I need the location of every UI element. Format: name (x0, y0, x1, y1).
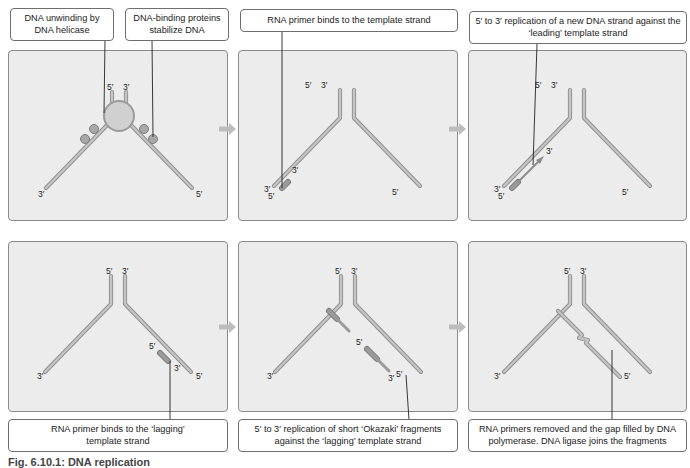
callout-primer-lagging: RNA primer binds to the ‘lagging’ templa… (8, 419, 228, 452)
svg-text:3′: 3′ (123, 82, 130, 92)
svg-text:5′: 5′ (107, 82, 114, 92)
svg-text:5′: 5′ (564, 266, 571, 276)
svg-text:5′: 5′ (392, 187, 399, 197)
svg-text:3′: 3′ (267, 371, 274, 381)
callout-okazaki: 5′ to 3′ replication of short ‘Okazaki’ … (238, 419, 458, 452)
svg-text:5′: 5′ (305, 80, 312, 90)
svg-text:3′: 3′ (546, 146, 553, 156)
arrow-right-icon (219, 321, 236, 333)
svg-text:3′: 3′ (551, 80, 558, 90)
svg-text:5′: 5′ (149, 341, 156, 351)
svg-text:5′: 5′ (268, 191, 275, 201)
leader-line (533, 44, 537, 165)
fork-leading-replication: 5′ 3′ 3′ 5′ 3′ 5′ (494, 80, 650, 201)
svg-text:3′: 3′ (292, 165, 299, 175)
figure-caption: Fig. 6.10.1: DNA replication (8, 456, 150, 468)
leader-line (406, 375, 409, 420)
arrow-right-icon (219, 123, 236, 135)
callout-ssb: DNA-binding proteins stabilize DNA (125, 8, 229, 41)
svg-text:5′: 5′ (196, 371, 203, 381)
svg-text:3′: 3′ (494, 371, 501, 381)
ssb-protein-icon (81, 135, 90, 144)
svg-text:5′: 5′ (356, 337, 363, 347)
fork-ligase: 5′ 3′ 3′ 5′ (494, 266, 650, 381)
leader-line (104, 40, 105, 113)
arrow-right-icon (449, 123, 466, 135)
svg-text:3′: 3′ (174, 363, 181, 373)
svg-text:5′: 5′ (498, 191, 505, 201)
arrow-right-icon (449, 321, 466, 333)
ssb-protein-icon (140, 125, 149, 134)
callout-helicase: DNA unwinding by DNA helicase (10, 8, 114, 41)
ssb-protein-icon (90, 125, 99, 134)
helicase-icon (104, 101, 134, 131)
svg-text:5′: 5′ (624, 371, 631, 381)
callout-primer-leading: RNA primer binds to the template strand (240, 9, 458, 32)
svg-text:3′: 3′ (321, 80, 328, 90)
callout-ligase: RNA primers removed and the gap filled b… (468, 419, 687, 452)
fork-primer-lagging: 5′ 3′ 3′ 5′ 3′ 5′ (37, 266, 203, 381)
svg-text:3′: 3′ (388, 373, 395, 383)
fork-okazaki: 5′ 3′ 3′ 5′ 3′ 5′ (267, 266, 421, 383)
svg-text:5′: 5′ (106, 266, 113, 276)
svg-text:3′: 3′ (38, 189, 45, 199)
callout-leading-replication: 5′ to 3′ replication of a new DNA strand… (469, 11, 687, 44)
svg-text:3′: 3′ (122, 266, 129, 276)
svg-text:5′: 5′ (622, 187, 629, 197)
svg-text:5′: 5′ (196, 189, 203, 199)
leader-line (152, 40, 153, 137)
svg-text:3′: 3′ (37, 371, 44, 381)
okazaki-fragment (377, 359, 389, 371)
okazaki-fragment (337, 319, 349, 331)
svg-text:3′: 3′ (580, 266, 587, 276)
fork-helicase: 5′ 3′ 3′ 5′ (38, 82, 203, 199)
fork-primer-leading: 5′ 3′ 3′ 5′ 3′ 5′ (264, 80, 420, 201)
svg-text:5′: 5′ (396, 369, 403, 379)
svg-text:3′: 3′ (351, 266, 358, 276)
svg-text:5′: 5′ (335, 266, 342, 276)
